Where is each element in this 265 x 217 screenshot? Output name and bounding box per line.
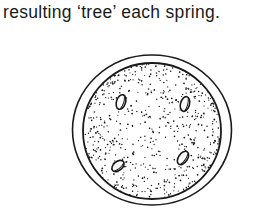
seed-disc-illustration (0, 0, 265, 217)
